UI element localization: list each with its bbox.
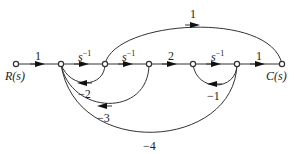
branch-gain-feedback-minus2: −2: [78, 88, 91, 100]
node-2: [102, 61, 107, 66]
branch-gain-feedback-minus4: −4: [143, 140, 156, 152]
node-4: [190, 61, 195, 66]
node-3: [146, 61, 151, 66]
branch-gain-n5-c: 1: [256, 50, 262, 62]
feedback-branch-minus2: [61, 64, 105, 83]
branch-gain-feedback-minus1: −1: [207, 90, 220, 102]
branch-gain-n4-n5: s−1: [211, 50, 224, 63]
branch-gain-n2-n3: s−1: [122, 50, 135, 63]
node-output: [279, 61, 284, 66]
branch-gain-n3-n4: 2: [168, 50, 174, 62]
output-label: C(s): [266, 70, 287, 82]
node-5: [234, 61, 239, 66]
feedback-branch-minus1: [193, 64, 237, 85]
branch-gain-n1-n2: s−1: [78, 50, 91, 63]
signal-flow-graph: [0, 0, 300, 154]
branch-gain-r-n1: 1: [35, 50, 41, 62]
branch-gain-feedback-minus3: −3: [97, 112, 110, 124]
input-label: R(s): [5, 70, 25, 82]
branch-gain-feedforward: 1: [190, 8, 196, 20]
node-1: [58, 61, 63, 66]
node-input: [13, 61, 18, 66]
